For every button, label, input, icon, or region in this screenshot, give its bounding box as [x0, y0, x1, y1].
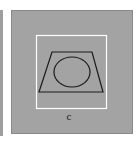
ellipse-shape [54, 57, 90, 87]
figure-drawing [0, 0, 138, 146]
figure-label: c [0, 110, 138, 122]
square-frame [37, 36, 107, 109]
trapezoid-shape [39, 52, 103, 92]
